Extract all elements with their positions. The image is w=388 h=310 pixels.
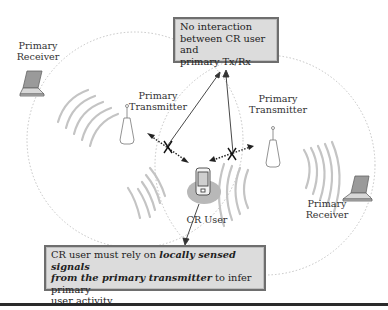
transmitter-tower-icon <box>266 127 280 168</box>
primary-transmitter-left-label: Primary Transmitter <box>128 90 188 112</box>
label-line: Transmitter <box>248 104 308 115</box>
bottom-rule-divider <box>0 303 388 306</box>
signal-waves-icon <box>128 168 165 218</box>
label-line: Primary <box>302 198 352 209</box>
callout-line: primary Tx/Rx <box>180 56 272 68</box>
callout-line: from the primary transmitter to infer pr… <box>51 272 259 295</box>
top-callout-box: No interaction between CR user and prima… <box>173 17 279 63</box>
blocked-link-icon <box>151 136 250 160</box>
callout-line: between CR user and <box>180 33 272 56</box>
mobile-device-icon <box>196 168 210 195</box>
callout-line: CR user must rely on locally sensed sign… <box>51 249 259 272</box>
bottom-callout-box: CR user must rely on locally sensed sign… <box>44 245 266 291</box>
label-line: Transmitter <box>128 101 188 112</box>
label-line: Primary <box>128 90 188 101</box>
cr-user-label: CR User <box>182 214 232 225</box>
primary-receiver-left-label: Primary Receiver <box>14 40 62 62</box>
signal-waves-icon <box>58 90 118 146</box>
label-line: Primary <box>14 40 62 51</box>
laptop-icon <box>20 71 44 96</box>
callout-emphasis: from the primary transmitter <box>51 272 212 283</box>
callout-text: CR user must rely on <box>51 249 159 260</box>
primary-receiver-right-label: Primary Receiver <box>302 198 352 220</box>
right-coverage-circle <box>155 55 375 275</box>
primary-transmitter-right-label: Primary Transmitter <box>248 93 308 115</box>
label-line: Receiver <box>14 51 62 62</box>
callout-line: No interaction <box>180 21 272 33</box>
label-line: Receiver <box>302 209 352 220</box>
label-line: Primary <box>248 93 308 104</box>
